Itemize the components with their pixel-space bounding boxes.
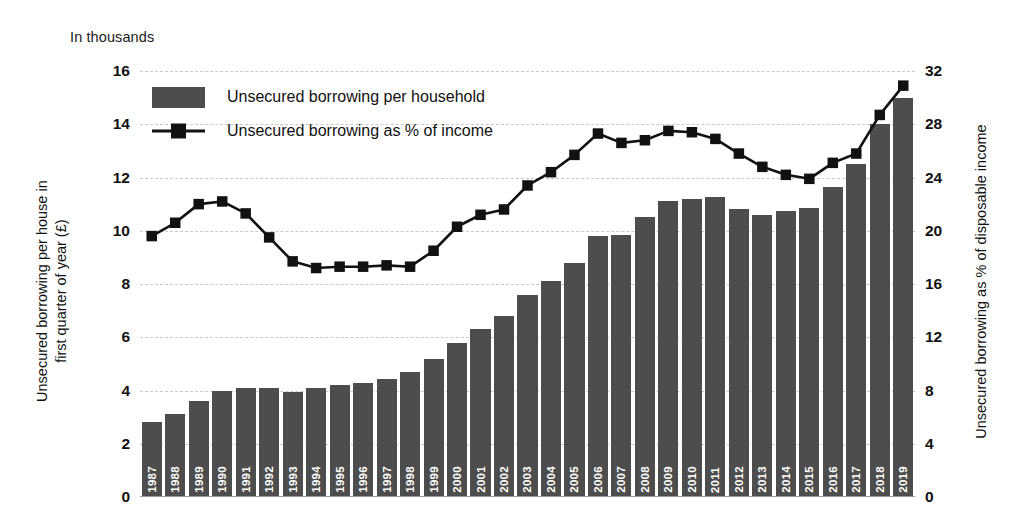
axis-baseline bbox=[140, 496, 915, 497]
legend-item-line: Unsecured borrowing as % of income bbox=[152, 114, 493, 148]
left-axis-title-line1: Unsecured borrowing per house in bbox=[34, 180, 50, 402]
line-marker bbox=[358, 261, 369, 272]
line-marker bbox=[170, 218, 181, 229]
line-marker bbox=[875, 110, 886, 121]
line-marker bbox=[287, 256, 298, 267]
y-axis-right-tick: 28 bbox=[925, 117, 961, 133]
line-marker bbox=[334, 261, 345, 272]
line-marker bbox=[499, 204, 510, 215]
line-marker bbox=[804, 174, 815, 185]
line-marker bbox=[264, 232, 275, 243]
y-axis-left-tick: 14 bbox=[100, 117, 130, 133]
chart-root: In thousands Unsecured borrowing per hou… bbox=[0, 0, 1031, 530]
y-axis-right-tick: 16 bbox=[925, 276, 961, 292]
line-marker bbox=[616, 138, 627, 149]
line-marker bbox=[828, 158, 839, 169]
line-marker bbox=[757, 162, 768, 173]
left-axis-title: Unsecured borrowing per house in first q… bbox=[33, 136, 71, 446]
y-axis-left-tick: 6 bbox=[100, 330, 130, 346]
line-marker bbox=[851, 148, 862, 159]
line-marker bbox=[781, 170, 792, 181]
line-marker bbox=[546, 167, 557, 178]
y-axis-left-tick: 0 bbox=[100, 489, 130, 505]
legend-line-label: Unsecured borrowing as % of income bbox=[227, 122, 493, 140]
left-axis-title-line2: first quarter of year (£) bbox=[52, 136, 71, 446]
legend-item-bar: Unsecured borrowing per household bbox=[152, 80, 493, 114]
y-axis-right-tick: 8 bbox=[925, 383, 961, 399]
y-axis-right-tick: 20 bbox=[925, 223, 961, 239]
y-axis-left-tick: 4 bbox=[100, 383, 130, 399]
y-axis-right-tick: 4 bbox=[925, 436, 961, 452]
line-marker bbox=[898, 80, 909, 91]
chart-legend: Unsecured borrowing per household Unsecu… bbox=[152, 80, 493, 148]
legend-bar-label: Unsecured borrowing per household bbox=[227, 88, 485, 106]
line-marker bbox=[475, 210, 486, 221]
line-marker bbox=[311, 263, 322, 274]
line-marker bbox=[687, 127, 698, 138]
y-axis-right-tick: 32 bbox=[925, 63, 961, 79]
y-axis-left-tick: 12 bbox=[100, 170, 130, 186]
y-axis-left-tick: 8 bbox=[100, 276, 130, 292]
legend-bar-swatch bbox=[152, 87, 205, 108]
line-marker bbox=[452, 222, 463, 233]
unit-note: In thousands bbox=[70, 29, 154, 45]
line-marker bbox=[734, 148, 745, 159]
right-axis-title: Unsecured borrowing as % of disposable i… bbox=[972, 87, 991, 477]
line-marker bbox=[193, 199, 204, 210]
line-marker bbox=[146, 231, 157, 242]
y-axis-right-tick: 24 bbox=[925, 170, 961, 186]
y-axis-left-tick: 2 bbox=[100, 436, 130, 452]
y-axis-right-tick: 0 bbox=[925, 489, 961, 505]
legend-line-marker-icon bbox=[152, 121, 205, 142]
line-marker bbox=[428, 245, 439, 256]
line-marker bbox=[640, 135, 651, 146]
line-marker bbox=[663, 126, 674, 137]
line-marker bbox=[710, 134, 721, 145]
line-marker bbox=[381, 260, 392, 271]
line-marker bbox=[522, 180, 533, 191]
y-axis-left-tick: 10 bbox=[100, 223, 130, 239]
line-marker bbox=[569, 150, 580, 161]
y-axis-left-tick: 16 bbox=[100, 63, 130, 79]
line-marker bbox=[240, 208, 251, 219]
line-marker bbox=[593, 128, 604, 139]
line-marker bbox=[217, 196, 228, 207]
y-axis-right-tick: 12 bbox=[925, 330, 961, 346]
line-marker bbox=[405, 261, 416, 272]
